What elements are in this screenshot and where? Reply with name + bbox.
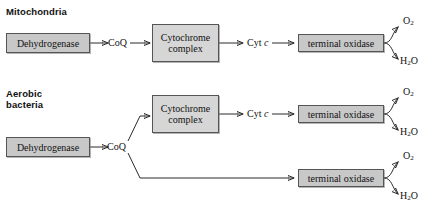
label-coq-mito: CoQ: [108, 37, 127, 48]
label-o2-direct: O2: [403, 150, 414, 164]
h2o-o-bacteria: O: [411, 126, 418, 137]
arrow-oxidase-to-h2o-bacteria: [384, 114, 398, 130]
label-h2o-bacteria: H2O: [400, 126, 418, 140]
node-dehydrogenase-mito: Dehydrogenase: [6, 33, 90, 53]
o2-subscript-bacteria: 2: [410, 90, 414, 98]
arrow-oxidase-to-o2-direct: [384, 162, 398, 178]
arrow-oxidase-to-o2-bacteria: [384, 98, 398, 114]
label-cyt-c-bacteria: Cyt c: [247, 108, 268, 119]
label-h2o-direct: H2O: [400, 190, 418, 204]
node-cytochrome-complex-mito: Cytochrome complex: [152, 24, 219, 62]
label-o2-mito: O2: [403, 15, 414, 29]
node-terminal-oxidase-mito: terminal oxidase: [298, 34, 384, 52]
cytochrome-complex-bacteria-line-1: Cytochrome: [161, 103, 210, 114]
cytochrome-complex-line-1: Cytochrome: [161, 32, 210, 43]
arrow-coq-to-cytochrome-bacteria: [128, 116, 150, 141]
cytochrome-complex-bacteria-line-2: complex: [168, 114, 202, 125]
cytochrome-complex-line-2: complex: [168, 43, 202, 54]
arrow-oxidase-to-o2-mito: [384, 27, 398, 43]
arrow-oxidase-to-h2o-mito: [384, 43, 398, 59]
label-h2o-mito: H2O: [400, 55, 418, 69]
arrow-oxidase-to-h2o-direct: [384, 178, 398, 194]
h2o-o: O: [411, 55, 418, 66]
cyt-c-prefix: Cyt: [247, 37, 264, 48]
pathway-diagram: Mitochondria Aerobic bacteria Dehydrog: [0, 0, 427, 215]
o2-subscript-direct: 2: [410, 154, 414, 162]
h2o-o-direct: O: [411, 190, 418, 201]
label-cyt-c-mito: Cyt c: [247, 37, 268, 48]
arrow-coq-to-oxidase-direct-bacteria: [128, 153, 294, 178]
node-terminal-oxidase-bacteria: terminal oxidase: [298, 105, 384, 123]
label-o2-bacteria: O2: [403, 86, 414, 100]
node-terminal-oxidase-direct: terminal oxidase: [298, 169, 384, 187]
cyt-c-italic-bacteria: c: [264, 108, 268, 119]
cyt-c-italic: c: [264, 37, 268, 48]
label-coq-bacteria: CoQ: [107, 141, 126, 152]
o2-subscript: 2: [410, 19, 414, 27]
cyt-c-prefix-bacteria: Cyt: [247, 108, 264, 119]
node-dehydrogenase-bacteria: Dehydrogenase: [6, 137, 90, 157]
node-cytochrome-complex-bacteria: Cytochrome complex: [152, 95, 219, 133]
